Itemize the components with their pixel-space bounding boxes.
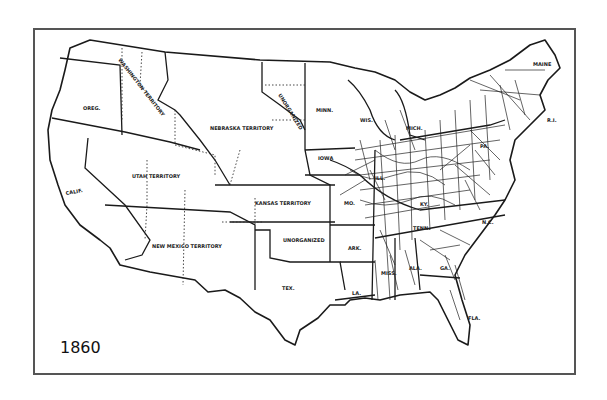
label-ark: ARK. [348, 245, 362, 251]
label-la: LA. [352, 290, 361, 296]
label-maine: MAINE [533, 61, 552, 67]
label-miss: MISS. [381, 270, 397, 276]
label-unorganized-south: UNORGANIZED [283, 237, 325, 243]
label-ky: KY. [420, 201, 429, 207]
label-ala: ALA. [409, 265, 422, 271]
label-minn: MINN. [316, 107, 333, 113]
label-ill: ILL. [375, 175, 385, 181]
label-nebraska-territory: NEBRASKA TERRITORY [210, 125, 274, 131]
label-utah-territory: UTAH TERRITORY [132, 173, 181, 179]
label-kansas-territory: KANSAS TERRITORY [255, 200, 311, 206]
label-wis: WIS. [360, 117, 373, 123]
label-iowa: IOWA [318, 155, 333, 161]
label-new-mexico-territory: NEW MEXICO TERRITORY [152, 243, 222, 249]
label-tex: TEX. [282, 285, 295, 291]
label-n-c: N.C. [482, 219, 494, 225]
label-ga: GA. [440, 265, 450, 271]
label-fla: FLA. [468, 315, 481, 321]
label-mich: MICH. [406, 125, 423, 131]
label-oreg: OREG. [83, 105, 101, 111]
label-mo: MO. [344, 200, 355, 206]
label-tenn: TENN. [413, 225, 430, 231]
label-r-i: R.I. [547, 117, 557, 123]
us-outline [48, 40, 560, 345]
label-pa: PA. [480, 143, 489, 149]
year-label: 1860 [60, 338, 101, 357]
